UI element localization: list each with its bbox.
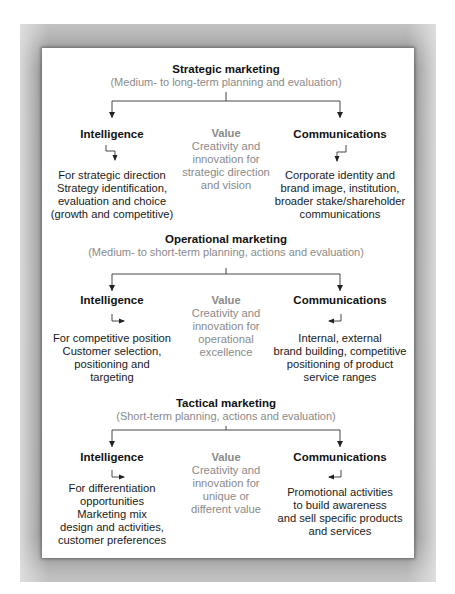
section-subtitle: (Short-term planning, actions and evalua… <box>106 410 346 423</box>
intelligence-description: For differentiation opportunities Market… <box>42 482 182 547</box>
intelligence-heading: Intelligence <box>62 128 162 141</box>
intelligence-heading: Intelligence <box>62 294 162 307</box>
value-heading: Value <box>176 127 276 140</box>
intelligence-description: For competitive position Customer select… <box>42 332 182 384</box>
communications-description: Corporate identity and brand image, inst… <box>270 169 410 221</box>
section-subtitle: (Medium- to short-term planning, actions… <box>76 246 376 259</box>
intelligence-heading: Intelligence <box>62 451 162 464</box>
section-title: Operational marketing <box>126 233 326 246</box>
value-heading: Value <box>176 451 276 464</box>
value-heading: Value <box>176 294 276 307</box>
communications-description: Internal, external brand building, compe… <box>266 332 414 384</box>
communications-heading: Communications <box>280 128 400 141</box>
communications-heading: Communications <box>280 451 400 464</box>
communications-heading: Communications <box>280 294 400 307</box>
section-title: Tactical marketing <box>126 397 326 410</box>
section-subtitle: (Medium- to long-term planning and evalu… <box>96 76 356 89</box>
intelligence-description: For strategic direction Strategy identif… <box>42 169 182 221</box>
value-description: Creativity and innovation for strategic … <box>166 140 286 192</box>
communications-description: Promotional activities to build awarenes… <box>266 486 414 538</box>
section-title: Strategic marketing <box>126 63 326 76</box>
